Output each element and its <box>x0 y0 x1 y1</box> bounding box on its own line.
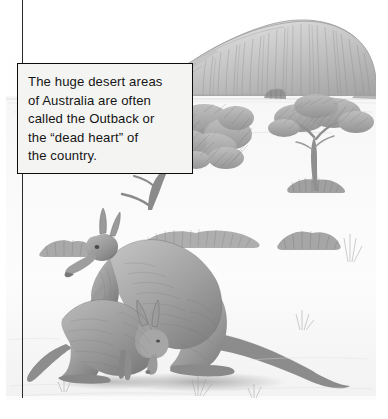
vertical-rule <box>22 0 23 398</box>
caption-callout: The huge desert areas of Australia are o… <box>17 63 193 174</box>
kangaroo-eye <box>95 245 100 249</box>
page-root: The huge desert areas of Australia are o… <box>0 0 388 419</box>
caption-text: The huge desert areas of Australia are o… <box>28 73 182 166</box>
joey-eye <box>156 339 160 342</box>
